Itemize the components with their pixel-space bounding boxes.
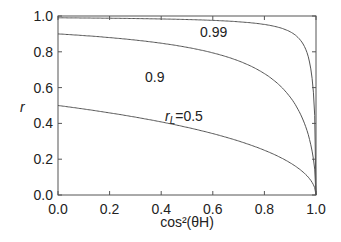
- series-line: [58, 18, 316, 195]
- chart: 0.00.20.40.60.81.00.00.20.40.60.81.0cos²…: [0, 0, 341, 242]
- y-tick-label: 0.8: [34, 44, 54, 60]
- label-099: 0.99: [200, 24, 227, 40]
- y-tick-label: 1.0: [34, 8, 54, 24]
- x-tick-label: 0.0: [48, 201, 68, 217]
- x-tick-label: 0.8: [255, 201, 275, 217]
- y-tick-label: 0.2: [34, 151, 54, 167]
- y-tick-label: 0.4: [34, 115, 54, 131]
- plot-frame: [58, 16, 316, 195]
- x-axis-label: cos²(θH): [160, 214, 214, 230]
- label-09: 0.9: [145, 69, 165, 85]
- x-tick-label: 1.0: [306, 201, 326, 217]
- label-rl05: rL=0.5: [165, 108, 203, 126]
- y-tick-label: 0.6: [34, 80, 54, 96]
- y-axis-label: r: [20, 99, 26, 115]
- x-tick-label: 0.2: [100, 201, 120, 217]
- y-tick-label: 0.0: [34, 187, 54, 203]
